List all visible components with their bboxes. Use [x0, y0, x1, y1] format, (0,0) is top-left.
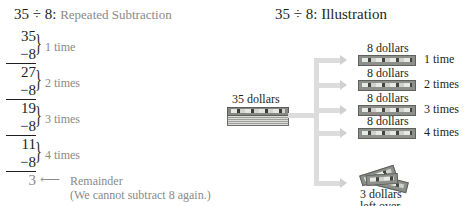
arrowhead-icon	[340, 80, 347, 90]
leftover-label: 3 dollars left over	[360, 188, 402, 206]
branch-arrow-2	[314, 83, 342, 88]
arrowhead-icon	[340, 178, 347, 188]
right-title: 35 ÷ 8: Illustration	[275, 6, 387, 23]
dollar-bills-icon	[358, 55, 416, 66]
left-arrow-icon: ⟵	[40, 171, 60, 188]
branch-arrow-4	[314, 131, 342, 136]
branch-arrow-5	[314, 181, 342, 186]
dollar-bills-icon	[358, 80, 416, 91]
remainder-value: 3	[6, 172, 36, 189]
branch-amount: 8 dollars	[367, 114, 409, 129]
subtrahend: −8	[6, 82, 36, 100]
minuend: 27	[6, 64, 36, 81]
left-title-sub: Repeated Subtraction	[60, 7, 172, 22]
branch-amount: 8 dollars	[367, 41, 409, 56]
step-label: 4 times	[45, 148, 80, 163]
branch-label: 4 times	[424, 125, 459, 140]
step-label: 3 times	[45, 112, 80, 127]
brace-icon: }	[35, 64, 42, 94]
minuend: 35	[6, 28, 36, 45]
brace-icon: }	[35, 28, 42, 58]
remainder-label: Remainder	[70, 174, 123, 189]
left-title: 35 ÷ 8: Repeated Subtraction	[14, 6, 172, 23]
branch-amount: 8 dollars	[367, 66, 409, 81]
branch-label: 3 times	[424, 102, 459, 117]
dollar-bill-icon	[366, 173, 399, 186]
subtrahend: −8	[6, 118, 36, 136]
arrowhead-icon	[340, 55, 347, 65]
dollar-bills-icon	[358, 128, 416, 139]
step-label: 1 time	[45, 40, 75, 55]
leftover-line-2: left over	[360, 200, 402, 206]
minuend: 19	[6, 100, 36, 117]
step-label: 2 times	[45, 76, 80, 91]
brace-icon: }	[35, 136, 42, 166]
remainder-note: (We cannot subtract 8 again.)	[70, 188, 211, 203]
arrowhead-icon	[340, 105, 347, 115]
arrowhead-icon	[340, 128, 347, 138]
money-stack-icon	[227, 110, 289, 126]
source-label: 35 dollars	[232, 92, 280, 107]
subtrahend: −8	[6, 46, 36, 64]
brace-icon: }	[35, 100, 42, 130]
minuend: 11	[6, 136, 36, 153]
subtrahend: −8	[6, 154, 36, 172]
branch-label: 1 time	[424, 52, 454, 67]
branch-arrow-3	[314, 108, 342, 113]
branch-amount: 8 dollars	[367, 91, 409, 106]
connector-trunk	[314, 58, 319, 186]
left-title-main: 35 ÷ 8:	[14, 6, 56, 22]
branch-label: 2 times	[424, 77, 459, 92]
branch-arrow-1	[314, 58, 342, 63]
